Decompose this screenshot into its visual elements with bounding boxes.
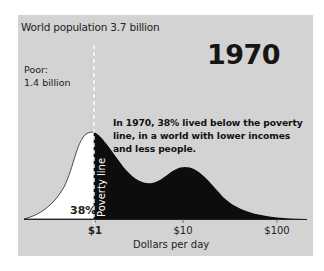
x-tick-100: $100 <box>264 225 289 236</box>
x-axis-label: Dollars per day <box>133 239 209 250</box>
above-poverty-area <box>94 132 306 220</box>
percent-below-label: 38% <box>70 204 96 217</box>
chart-panel: World population 3.7 billion 1970 Poor: … <box>18 15 313 256</box>
distribution-chart <box>18 15 313 256</box>
poverty-line-label: Poverty line <box>96 157 107 217</box>
x-tick-10: $10 <box>173 225 192 236</box>
x-tick-1: $1 <box>88 225 102 236</box>
